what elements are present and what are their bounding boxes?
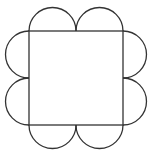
bottom-right-semicircle [76,125,123,148]
central-square [29,31,123,125]
right-top-semicircle [123,31,146,78]
left-top-semicircle [6,31,29,78]
bottom-left-semicircle [29,125,76,148]
square-with-semicircles-diagram [0,0,152,154]
top-left-semicircle [29,8,76,31]
top-right-semicircle [76,8,123,31]
right-bottom-semicircle [123,78,146,125]
diagram-canvas [0,0,152,154]
left-bottom-semicircle [6,78,29,125]
